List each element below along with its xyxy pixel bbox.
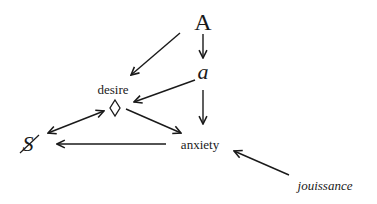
edge-diamond-S-bidirectional [48, 111, 104, 133]
diagram-canvas [0, 0, 377, 204]
diamond-icon [110, 100, 120, 116]
edge-jouissance-to-anxiety [234, 151, 289, 175]
edge-A-to-desire [131, 33, 180, 75]
node-barred-S: S [23, 133, 34, 155]
node-jouissance: jouissance [298, 179, 353, 192]
node-desire: desire [97, 83, 128, 96]
node-anxiety: anxiety [181, 138, 219, 151]
edge-a-to-diamond [134, 80, 195, 102]
node-A: A [194, 10, 211, 34]
edge-diamond-to-anxiety [126, 109, 181, 133]
node-a: a [198, 61, 209, 83]
